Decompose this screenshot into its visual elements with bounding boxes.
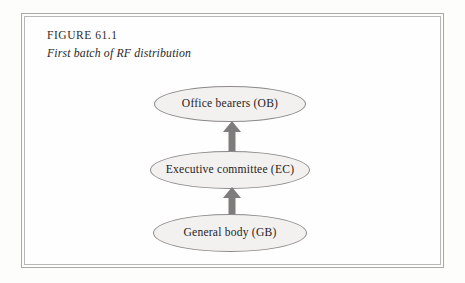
node-executive-committee-label: Executive committee (EC): [166, 163, 294, 176]
figure-page: FIGURE 61.1 First batch of RF distributi…: [0, 0, 465, 283]
arrow-gb-to-ec: [221, 187, 243, 215]
node-office-bearers: Office bearers (OB): [154, 86, 306, 122]
node-general-body: General body (GB): [153, 214, 307, 252]
arrow-ec-to-ob: [221, 121, 243, 152]
figure-caption-block: FIGURE 61.1 First batch of RF distributi…: [47, 28, 327, 61]
figure-caption-text: First batch of RF distribution: [47, 45, 327, 61]
node-general-body-label: General body (GB): [184, 226, 277, 239]
node-office-bearers-label: Office bearers (OB): [182, 97, 278, 110]
node-executive-committee: Executive committee (EC): [150, 151, 310, 189]
figure-number: FIGURE 61.1: [47, 28, 327, 43]
